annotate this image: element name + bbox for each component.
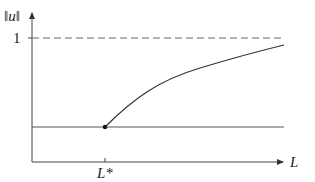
x-tick-label: L* (96, 165, 113, 181)
x-axis-label: L (289, 154, 298, 170)
y-axis-label: ‖u‖ (4, 8, 20, 24)
y-tick-label: 1 (13, 30, 21, 46)
bifurcation-point (103, 125, 107, 129)
bifurcation-diagram: ‖u‖ 1 L* L (0, 0, 315, 182)
upper-branch-curve (105, 45, 284, 127)
